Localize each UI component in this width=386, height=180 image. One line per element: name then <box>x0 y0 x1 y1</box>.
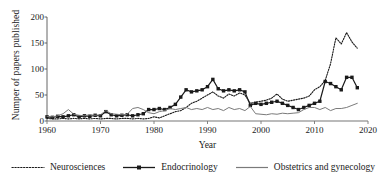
line-square-marker-swatch <box>122 163 156 172</box>
series-marker <box>217 87 220 90</box>
legend-item[interactable]: Neurosciences <box>11 162 105 172</box>
series-marker <box>270 101 273 104</box>
series-marker <box>200 88 203 91</box>
x-tick-label: 1960 <box>27 126 67 135</box>
series-marker <box>318 100 321 103</box>
x-axis-title: Year <box>47 140 368 150</box>
solid-gray-line-swatch <box>235 163 269 172</box>
series-marker <box>329 82 332 85</box>
line-chart-figure: Numper of papers published 050100150200 … <box>0 0 386 180</box>
series-marker <box>265 102 268 105</box>
plot-area <box>0 0 386 180</box>
legend-label: Endocrinology <box>161 162 217 172</box>
series-marker <box>334 85 337 88</box>
series-marker <box>120 114 123 117</box>
series-marker <box>356 86 359 89</box>
series-marker <box>67 114 70 117</box>
dotted-line-swatch <box>11 163 45 172</box>
series-marker <box>313 102 316 105</box>
series-marker <box>211 78 214 81</box>
legend-label: Neurosciences <box>50 162 105 172</box>
series-marker <box>238 88 241 91</box>
series-marker <box>152 108 155 111</box>
x-tick-label: 2020 <box>348 126 386 135</box>
legend-item[interactable]: Obstetrics and gynecology <box>235 162 375 172</box>
series-marker <box>61 115 64 118</box>
series-marker <box>291 106 294 109</box>
series-marker <box>254 102 257 105</box>
legend-item[interactable]: Endocrinology <box>122 162 217 172</box>
series-marker <box>184 88 187 91</box>
series-marker <box>286 104 289 107</box>
series-marker <box>142 112 145 115</box>
x-tick-label: 2010 <box>295 126 335 135</box>
x-tick-label: 1970 <box>81 126 121 135</box>
series-marker <box>131 114 134 117</box>
series-marker <box>307 104 310 107</box>
series-marker <box>259 103 262 106</box>
series-marker <box>350 76 353 79</box>
series-marker <box>179 95 182 98</box>
chart-legend: NeurosciencesEndocrinologyObstetrics and… <box>0 158 386 176</box>
series-marker <box>340 88 343 91</box>
series-line-endocrinology <box>47 77 357 117</box>
series-marker <box>275 100 278 103</box>
series-marker <box>243 90 246 93</box>
series-marker <box>345 76 348 79</box>
series-marker <box>222 89 225 92</box>
series-marker <box>233 89 236 92</box>
series-marker <box>158 107 161 110</box>
series-marker <box>195 89 198 92</box>
series-marker <box>206 85 209 88</box>
legend-label: Obstetrics and gynecology <box>274 162 375 172</box>
square-marker <box>137 165 141 169</box>
series-marker <box>227 88 230 91</box>
series-marker <box>136 113 139 116</box>
series-marker <box>190 90 193 93</box>
x-axis-tick-labels: 1960197019801990200020102020 <box>0 126 386 138</box>
series-marker <box>147 108 150 111</box>
series-marker <box>174 103 177 106</box>
series-marker <box>324 80 327 83</box>
series-marker <box>281 102 284 105</box>
series-marker <box>297 108 300 111</box>
x-tick-label: 1990 <box>188 126 228 135</box>
x-tick-label: 2000 <box>241 126 281 135</box>
x-tick-label: 1980 <box>134 126 174 135</box>
